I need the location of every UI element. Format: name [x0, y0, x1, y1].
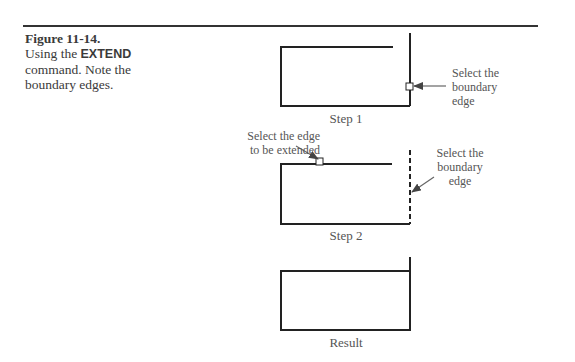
callout-line: Select the — [432, 146, 488, 160]
step1-drawing — [281, 33, 446, 106]
step1-label: Step 1 — [306, 111, 386, 127]
step2-label: Step 2 — [306, 228, 386, 244]
result-label: Result — [306, 335, 386, 351]
step2-callout-edge: Select the edge to be extended — [228, 129, 320, 157]
callout-line: Select the — [452, 66, 499, 80]
step2-drawing — [281, 146, 434, 224]
step2-callout-boundary: Select the boundary edge — [432, 146, 488, 188]
callout-line: Select the edge — [228, 129, 320, 143]
extend-diagram — [0, 0, 575, 362]
callout-line: edge — [452, 94, 499, 108]
callout-line: boundary — [432, 160, 488, 174]
result-drawing — [281, 257, 410, 330]
callout-line: edge — [432, 174, 488, 188]
callout-line: boundary — [452, 80, 499, 94]
step1-callout-boundary: Select the boundary edge — [452, 66, 499, 108]
callout-line: to be extended — [228, 143, 320, 157]
